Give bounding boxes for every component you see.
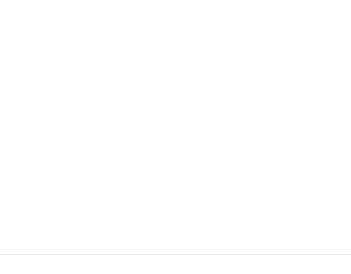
surface-plot xyxy=(0,0,351,274)
